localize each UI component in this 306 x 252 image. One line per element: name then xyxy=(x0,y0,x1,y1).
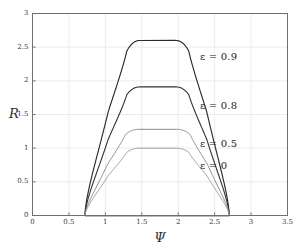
x-tick-label: 0.5 xyxy=(60,218,78,226)
x-tick-label: 1 xyxy=(96,218,114,226)
y-tick-label: 0 xyxy=(12,211,29,219)
y-tick-label: 1 xyxy=(12,144,29,152)
y-axis-title: R xyxy=(6,106,22,121)
curves xyxy=(85,40,229,215)
x-tick-label: 3.5 xyxy=(279,218,297,226)
series-label-epsilon-0: ε = 0 xyxy=(200,160,227,171)
y-tick-label: 0.5 xyxy=(12,177,29,185)
x-tick-label: 2 xyxy=(169,218,187,226)
y-tick-label: 3 xyxy=(12,9,29,17)
chart-svg xyxy=(0,0,306,252)
x-axis-title: Ψ xyxy=(150,230,170,245)
y-tick-label: 2 xyxy=(12,76,29,84)
y-tick-label: 2.5 xyxy=(12,43,29,51)
x-tick-label: 3 xyxy=(242,218,260,226)
chart-figure: 00.511.522.533.500.511.522.53ΨRε = 0.9ε … xyxy=(0,0,306,252)
gridlines xyxy=(33,14,288,216)
x-tick-label: 0 xyxy=(24,218,42,226)
series-label-epsilon-0p9: ε = 0.9 xyxy=(200,51,237,62)
series-label-epsilon-0p5: ε = 0.5 xyxy=(200,138,237,149)
series-label-epsilon-0p8: ε = 0.8 xyxy=(200,100,237,111)
x-tick-label: 2.5 xyxy=(206,218,224,226)
x-tick-label: 1.5 xyxy=(133,218,151,226)
curve-epsilon-0p9 xyxy=(85,40,229,215)
